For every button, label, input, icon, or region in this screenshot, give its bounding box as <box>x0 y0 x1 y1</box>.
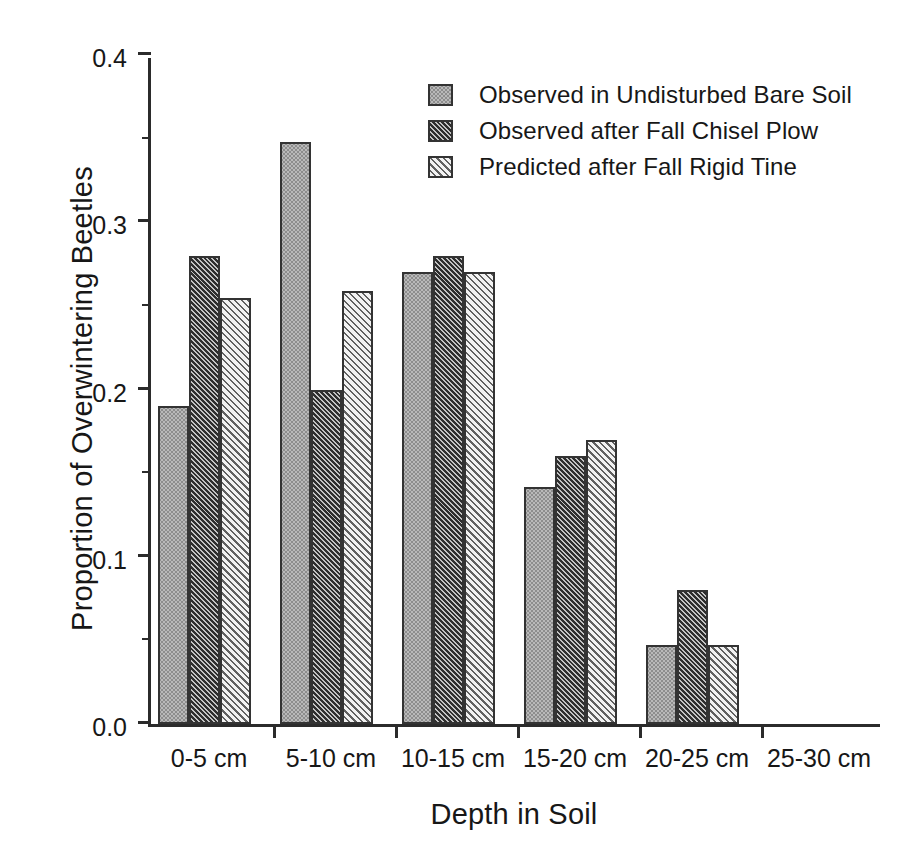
legend-swatch-icon <box>428 84 453 106</box>
bar <box>433 256 464 724</box>
legend-item: Predicted after Fall Rigid Tine <box>428 150 852 183</box>
x-axis-title: Depth in Soil <box>148 798 880 831</box>
y-axis-tick-minor <box>142 304 151 306</box>
y-axis-tick-major <box>138 387 151 390</box>
x-axis-tick-label: 10-15 cm <box>401 744 505 773</box>
y-axis-tick-major <box>138 554 151 557</box>
y-axis-tick-major <box>138 52 151 55</box>
bar <box>677 590 708 724</box>
x-axis-tick <box>517 724 520 738</box>
x-axis-tick <box>273 724 276 738</box>
bar <box>524 487 555 724</box>
y-axis-tick-label: 0.2 <box>92 378 127 407</box>
y-axis-tick-label: 0.3 <box>92 211 127 240</box>
legend-item: Observed in Undisturbed Bare Soil <box>428 78 852 111</box>
y-axis-tick-label: 0.4 <box>92 44 127 73</box>
x-axis-tick-label: 20-25 cm <box>645 744 749 773</box>
y-axis-tick-minor <box>142 638 151 640</box>
bar <box>464 272 495 724</box>
legend-label: Predicted after Fall Rigid Tine <box>479 153 797 181</box>
x-axis-tick <box>639 724 642 738</box>
bar <box>280 142 311 724</box>
legend-label: Observed in Undisturbed Bare Soil <box>479 81 852 109</box>
bar-chart-figure: Proportion of Overwintering Beetles Dept… <box>0 0 924 867</box>
y-axis-tick-major <box>138 219 151 222</box>
bar <box>311 390 342 725</box>
y-axis-tick-label: 0.1 <box>92 545 127 574</box>
bar <box>646 645 677 724</box>
y-axis-tick-label: 0.0 <box>92 713 127 742</box>
x-axis-tick-label: 25-30 cm <box>767 744 871 773</box>
x-axis-tick <box>761 724 764 738</box>
legend-label: Observed after Fall Chisel Plow <box>479 117 818 145</box>
legend: Observed in Undisturbed Bare SoilObserve… <box>428 78 852 186</box>
bar <box>402 272 433 724</box>
bar <box>158 406 189 724</box>
x-axis-tick-label: 5-10 cm <box>286 744 376 773</box>
bar <box>708 645 739 724</box>
y-axis-tick-minor <box>142 137 151 139</box>
x-axis-tick <box>395 724 398 738</box>
legend-swatch-icon <box>428 156 453 178</box>
bar <box>555 456 586 724</box>
legend-swatch-icon <box>428 120 453 142</box>
x-axis-tick-label: 0-5 cm <box>171 744 247 773</box>
x-axis-tick-label: 15-20 cm <box>523 744 627 773</box>
bar <box>342 291 373 724</box>
y-axis-tick-major <box>138 721 151 724</box>
y-axis-tick-minor <box>142 471 151 473</box>
bar <box>189 256 220 724</box>
bar <box>220 298 251 724</box>
bar <box>586 440 617 724</box>
legend-item: Observed after Fall Chisel Plow <box>428 114 852 147</box>
